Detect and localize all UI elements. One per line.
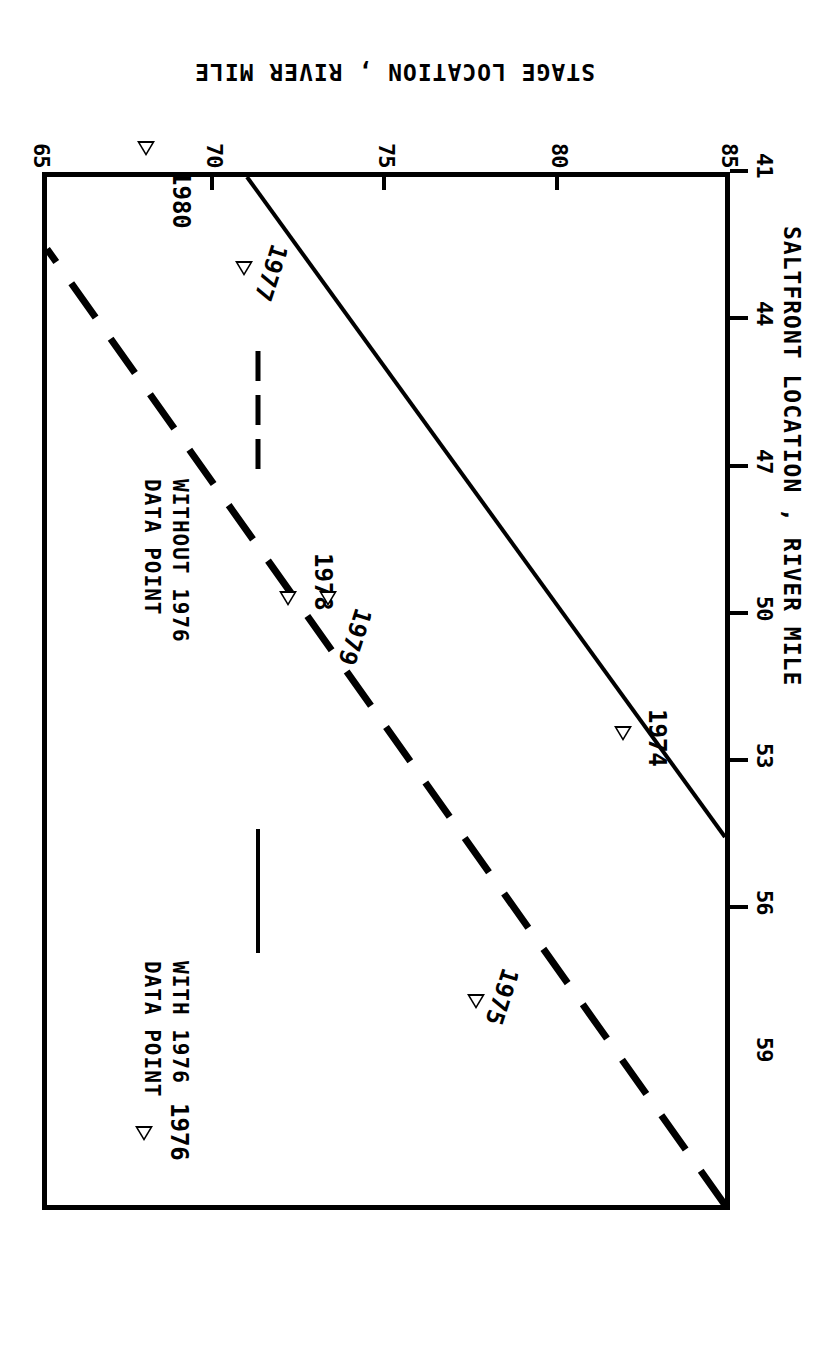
x-tick-label-75: 75	[375, 143, 397, 168]
rotated-figure-wrapper: 1980 1977 1978 1979 1974 1975 1976 WITH …	[0, 0, 825, 1371]
y-axis-title: SALTFRONT LOCATION , RIVER MILE	[780, 226, 803, 686]
x-tick-label-65: 65	[30, 143, 52, 168]
solid-line-sample	[256, 829, 260, 953]
x-tick-label-80: 80	[548, 143, 570, 168]
x-axis-title: STAGE LOCATION , RIVER MILE	[194, 60, 595, 83]
y-tick-label-50: 50	[753, 596, 775, 621]
data-point-1976	[135, 1126, 153, 1141]
legend-label-without-1976: WITHOUT 1976 DATA POINT	[137, 479, 194, 643]
data-point-label-1976: 1976	[167, 1103, 191, 1161]
data-point-1975	[467, 994, 485, 1009]
legend-label-with-1976: WITH 1976 DATA POINT	[137, 961, 194, 1097]
legend-without-line2: DATA POINT	[140, 479, 164, 615]
dashed-line-sample	[254, 347, 262, 471]
legend-with-line1: WITH 1976	[168, 961, 192, 1084]
data-point-1979	[319, 591, 337, 606]
data-point-1978	[279, 591, 297, 606]
legend-with-line2: DATA POINT	[140, 961, 164, 1097]
x-tick-label-85: 85	[718, 143, 740, 168]
y-tick-label-44: 44	[753, 301, 775, 326]
data-point-1980	[137, 141, 155, 156]
figure-canvas: 1980 1977 1978 1979 1974 1975 1976 WITH …	[0, 0, 825, 1371]
y-tick-label-56: 56	[753, 890, 775, 915]
data-point-1977	[235, 261, 253, 276]
data-point-label-1974: 1974	[645, 709, 669, 767]
x-tick-label-70: 70	[203, 143, 225, 168]
y-tick-label-47: 47	[753, 449, 775, 474]
legend-without-line1: WITHOUT 1976	[168, 479, 192, 643]
x-axis-ticks	[38, 169, 730, 221]
y-tick-label-41: 41	[753, 153, 775, 178]
data-point-1974	[614, 726, 632, 741]
y-tick-label-59: 59	[753, 1037, 775, 1062]
y-tick-label-53: 53	[753, 743, 775, 768]
